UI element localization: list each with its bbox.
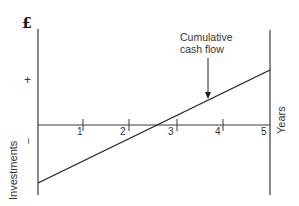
annotation-arrow-head bbox=[205, 92, 211, 99]
tick-label-2: 2 bbox=[120, 127, 126, 137]
positive-marker: + bbox=[24, 75, 31, 85]
x-axis-label: Years bbox=[276, 106, 286, 134]
annotation-line-1: Cumulative bbox=[180, 32, 233, 42]
tick-label-3: 3 bbox=[168, 127, 174, 137]
y-axis-label: Investments bbox=[8, 141, 18, 200]
cumulative-cash-flow-line bbox=[38, 70, 270, 183]
tick-label-4: 4 bbox=[215, 127, 221, 137]
annotation-line-2: cash flow bbox=[180, 44, 224, 54]
negative-marker: – bbox=[24, 138, 34, 144]
tick-label-1: 1 bbox=[77, 127, 83, 137]
chart-canvas bbox=[0, 0, 299, 206]
tick-label-5: 5 bbox=[261, 127, 267, 137]
currency-symbol: £ bbox=[22, 16, 32, 30]
